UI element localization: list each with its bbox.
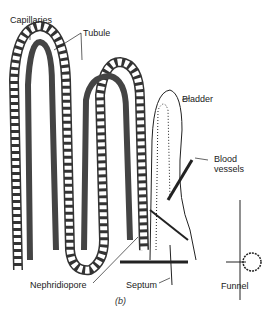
label-septum: Septum — [126, 280, 157, 290]
label-blood: Blood — [214, 154, 237, 164]
label-capillaries: Capillaries — [10, 15, 52, 25]
figure-caption: (b) — [115, 296, 126, 306]
label-tubule: Tubule — [83, 28, 110, 38]
label-nephridiopore: Nephridiopore — [30, 280, 87, 290]
label-funnel: Funnel — [221, 281, 249, 291]
label-vessels: vessels — [214, 164, 244, 174]
label-bladder: Bladder — [182, 94, 213, 104]
